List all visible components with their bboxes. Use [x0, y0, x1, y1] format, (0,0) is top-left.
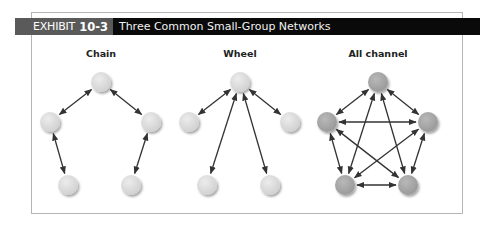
wheel-node-right — [280, 112, 300, 132]
all-channel-node-bottom-right — [398, 175, 418, 195]
wheel-node-top — [230, 72, 250, 92]
wheel-label: Wheel — [223, 48, 256, 59]
wheel-edge-top-bottom-right — [243, 94, 266, 174]
chain-node-right — [141, 112, 161, 132]
all-channel-edge-top-bottom-left — [349, 93, 375, 173]
wheel-node-bottom-left — [197, 175, 217, 195]
wheel-node-bottom-right — [260, 175, 280, 195]
chain-edge-left-bottom-left — [53, 134, 64, 174]
all-channel-label: All channel — [348, 48, 407, 59]
all-channel-node-bottom-left — [335, 175, 355, 195]
all-channel-edge-left-bottom-right — [336, 129, 398, 177]
chain-edge-top-left — [59, 89, 91, 114]
all-channel-edge-right-bottom-right — [412, 133, 425, 173]
chain-node-bottom-right — [121, 175, 141, 195]
all-channel-edge-top-bottom-right — [381, 94, 404, 174]
wheel-node-left — [179, 112, 199, 132]
all-channel-edge-top-right — [387, 89, 418, 114]
all-channel-edge-left-bottom-left — [330, 134, 341, 174]
chain-node-top — [91, 72, 111, 92]
chain-label: Chain — [86, 48, 116, 59]
chain-edge-right-bottom-right — [135, 133, 148, 173]
networks-diagram: ChainWheelAll channel — [0, 0, 499, 232]
all-channel-node-left — [317, 112, 337, 132]
all-channel-edge-top-left — [336, 89, 368, 114]
wheel-edge-top-right — [249, 89, 280, 114]
wheel-edge-top-left — [198, 89, 230, 114]
wheel-edge-top-bottom-left — [211, 93, 237, 173]
chain-edge-top-right — [110, 89, 141, 114]
all-channel-node-top — [368, 72, 388, 92]
all-channel-edge-right-bottom-left — [355, 129, 419, 177]
all-channel-node-right — [418, 112, 438, 132]
chain-node-left — [40, 112, 60, 132]
chain-node-bottom-left — [58, 175, 78, 195]
